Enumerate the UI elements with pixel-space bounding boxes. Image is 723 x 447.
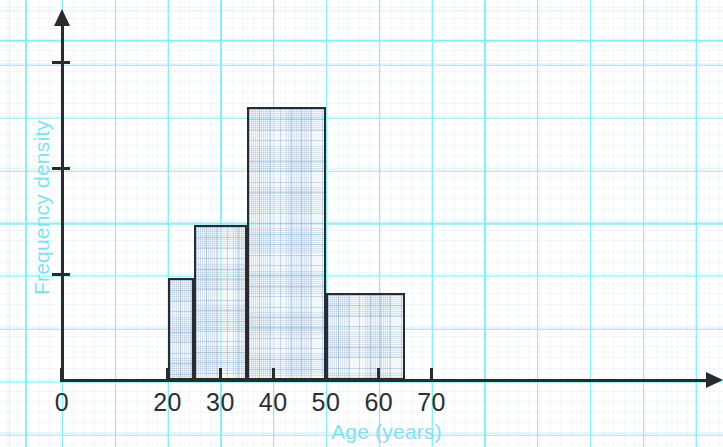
x-axis-tick-3 bbox=[272, 368, 275, 382]
x-axis-title: Age (years) bbox=[0, 420, 723, 444]
x-axis-tick-label-70: 70 bbox=[402, 388, 462, 417]
histogram-bar-3 bbox=[326, 293, 405, 380]
x-axis-tick-label-50: 50 bbox=[296, 388, 356, 417]
histogram-figure: 0203040506070 Frequency density Age (yea… bbox=[0, 0, 723, 447]
x-axis-tick-label-20: 20 bbox=[138, 388, 198, 417]
histogram-bar-2 bbox=[247, 107, 326, 380]
histogram-bar-1 bbox=[194, 225, 247, 381]
y-axis-arrow-icon bbox=[54, 9, 70, 26]
x-axis-arrow-icon bbox=[706, 372, 723, 388]
histogram-bar-0 bbox=[168, 278, 194, 381]
x-axis-tick-0 bbox=[60, 368, 63, 382]
y-axis-tick-1 bbox=[52, 167, 70, 170]
x-axis-tick-6 bbox=[430, 368, 433, 382]
x-axis-tick-label-40: 40 bbox=[243, 388, 303, 417]
y-axis-line bbox=[61, 22, 64, 382]
y-axis-tick-0 bbox=[52, 273, 70, 276]
x-axis-tick-label-30: 30 bbox=[190, 388, 250, 417]
x-axis-tick-2 bbox=[219, 368, 222, 382]
x-axis-tick-4 bbox=[324, 368, 327, 382]
x-axis-line bbox=[61, 379, 716, 382]
x-axis-tick-1 bbox=[166, 368, 169, 382]
x-axis-tick-5 bbox=[377, 368, 380, 382]
x-axis-tick-label-0: 0 bbox=[32, 388, 92, 417]
x-axis-tick-label-60: 60 bbox=[349, 388, 409, 417]
y-axis-tick-2 bbox=[52, 61, 70, 64]
y-axis-title: Frequency density bbox=[30, 120, 54, 295]
